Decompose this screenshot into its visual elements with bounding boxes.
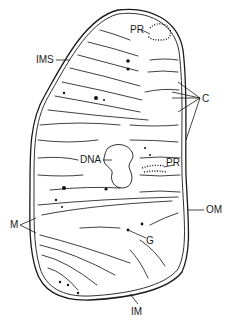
pr-region-middle xyxy=(142,165,166,172)
label-dna: DNA xyxy=(80,154,101,165)
label-g: G xyxy=(146,235,154,246)
label-pr-top: PR xyxy=(130,24,144,35)
label-m: M xyxy=(10,219,18,230)
im-leader xyxy=(130,294,138,304)
label-ims: IMS xyxy=(36,54,54,65)
g-leader xyxy=(128,230,146,238)
mitochondrion-diagram: PR IMS C DNA PR M OM G IM xyxy=(0,0,230,322)
inner-membrane xyxy=(34,13,185,296)
dna-nucleoid xyxy=(104,145,133,188)
label-pr-middle: PR xyxy=(166,157,180,168)
label-c: C xyxy=(202,93,209,104)
granules xyxy=(55,59,151,294)
label-im: IM xyxy=(131,306,142,317)
label-om: OM xyxy=(206,204,222,215)
pr-region-top xyxy=(148,24,171,40)
m-leaders xyxy=(20,218,36,233)
outer-membrane xyxy=(30,9,189,300)
